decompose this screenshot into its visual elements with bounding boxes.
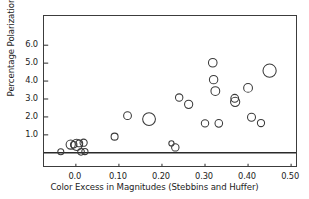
y-tick-label: 6.0 bbox=[5, 39, 38, 49]
x-tick-label: 0.40 bbox=[238, 171, 256, 181]
data-point bbox=[124, 112, 132, 120]
data-point bbox=[209, 75, 217, 83]
data-point bbox=[244, 83, 253, 92]
data-point bbox=[257, 119, 264, 126]
y-tick-label: 5.0 bbox=[5, 57, 38, 67]
data-point bbox=[169, 141, 174, 146]
y-tick-label: 1.0 bbox=[5, 129, 38, 139]
data-point bbox=[211, 87, 220, 96]
x-tick-label: 0.10 bbox=[109, 171, 127, 181]
scatter-plot-figure: Percentage Polarization 1.02.03.04.05.06… bbox=[0, 0, 309, 199]
plot-frame bbox=[43, 15, 297, 167]
plot-area bbox=[44, 16, 296, 166]
x-tick-label: 0.0 bbox=[68, 171, 81, 181]
data-point bbox=[215, 120, 223, 128]
y-tick-label: 2.0 bbox=[5, 111, 38, 121]
data-point bbox=[82, 148, 88, 154]
data-point bbox=[111, 133, 118, 140]
data-point bbox=[201, 120, 208, 127]
y-tick-label: 3.0 bbox=[5, 93, 38, 103]
data-point bbox=[172, 144, 179, 151]
y-axis-title: Percentage Polarization bbox=[6, 0, 16, 102]
x-axis-title: Color Excess in Magnitudes (Stebbins and… bbox=[0, 182, 309, 192]
y-tick-label: 4.0 bbox=[5, 75, 38, 85]
data-points bbox=[44, 16, 296, 166]
data-point bbox=[248, 113, 256, 121]
data-point bbox=[80, 139, 87, 146]
data-point bbox=[58, 149, 64, 155]
data-point bbox=[175, 94, 182, 101]
data-point bbox=[185, 100, 193, 108]
data-point bbox=[143, 113, 156, 126]
x-tick-label: 0.30 bbox=[195, 171, 213, 181]
data-point bbox=[263, 64, 276, 77]
x-tick-label: 0.20 bbox=[152, 171, 170, 181]
data-point bbox=[208, 58, 217, 67]
x-tick-label: 0.50 bbox=[281, 171, 299, 181]
